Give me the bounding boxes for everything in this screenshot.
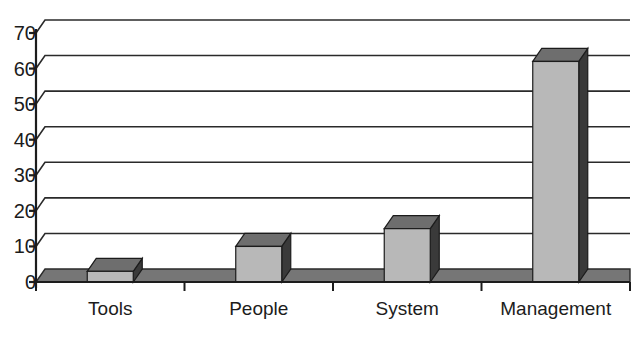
bar-front-face (236, 246, 282, 282)
x-axis-tick-labels: ToolsPeopleSystemManagement (0, 299, 644, 329)
bar-front-face (384, 229, 430, 282)
bar-management (533, 48, 588, 282)
x-axis-label-system: System (376, 299, 439, 318)
bar-top-face (533, 48, 588, 61)
x-axis-label-management: Management (500, 299, 611, 318)
bar-top-face (87, 258, 142, 271)
plot-svg (0, 0, 644, 343)
bar-system (384, 216, 439, 282)
x-axis-label-tools: Tools (88, 299, 132, 318)
bar-people (236, 233, 291, 282)
bar-top-face (384, 216, 439, 229)
gridline-70 (36, 20, 630, 33)
plot-area (0, 0, 644, 343)
bar-front-face (533, 61, 579, 282)
x-axis-label-people: People (229, 299, 288, 318)
bar-top-face (236, 233, 291, 246)
bar-chart: 010203040506070 ToolsPeopleSystemManagem… (0, 0, 644, 343)
bar-tools (87, 258, 142, 282)
bar-front-face (87, 271, 133, 282)
bar-side-face (579, 48, 588, 282)
